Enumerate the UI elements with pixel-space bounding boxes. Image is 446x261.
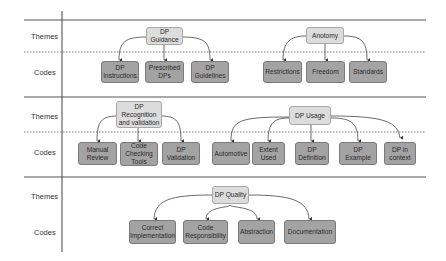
theme-dp-guidance: DP Guidance: [146, 27, 183, 45]
theme-anotomy: Anotomy: [306, 27, 344, 44]
code-abstraction: Abstraction: [238, 220, 275, 244]
code-manual-review: Manual Review: [78, 142, 117, 165]
code-dp-validation: DP Validation: [162, 142, 200, 165]
code-dp-example: DP Example: [339, 142, 377, 165]
code-dp-in-context: DP in context: [384, 142, 416, 165]
theme-dp-usage: DP Usage: [289, 106, 331, 125]
row-label-codes: Codes: [34, 148, 84, 157]
row-label-codes: Codes: [34, 228, 84, 237]
row-label-codes: Codes: [34, 68, 84, 77]
code-freedom: Freedom: [306, 61, 345, 83]
code-dp-instructions: DP Instructions: [101, 61, 139, 83]
code-prescribed-dps: Prescribed DPs: [145, 61, 184, 83]
theme-dp-recognition-validation: DP Recognition and validation: [116, 101, 162, 128]
code-standards: Standards: [349, 61, 387, 83]
code-code-checking-tools: Code Checking Tools: [120, 142, 158, 166]
theme-dp-quality: DP Quality: [212, 186, 249, 204]
code-restrictions: Restrictions: [263, 61, 302, 83]
row-label-themes: Themes: [31, 112, 81, 121]
code-extent-used: Extent Used: [252, 142, 285, 165]
thematic-diagram: Themes Codes Themes Codes Themes Codes D…: [0, 0, 446, 261]
code-dp-definition: DP Definition: [295, 142, 329, 165]
code-automotive: Automotive: [212, 142, 250, 165]
code-code-responsibility: Code Responsibility: [183, 220, 228, 244]
row-label-themes: Themes: [31, 32, 81, 41]
row-label-themes: Themes: [31, 192, 81, 201]
code-correct-implementation: Correct Implementation: [129, 220, 176, 244]
code-dp-guidelines: DP Guidelines: [191, 61, 229, 83]
code-documentation: Documentation: [284, 220, 336, 244]
